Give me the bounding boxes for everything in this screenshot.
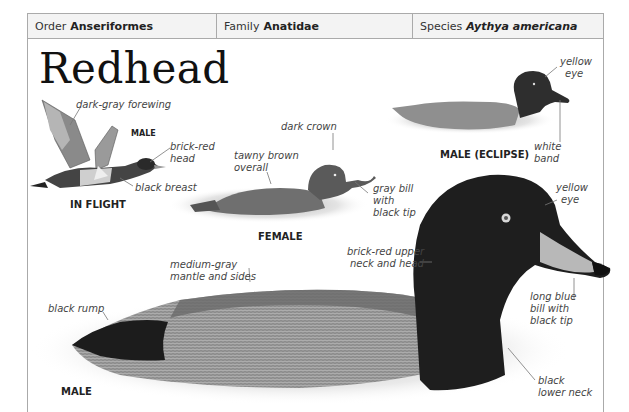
label-line: overall <box>234 162 268 173</box>
label-line: medium-gray <box>170 259 237 270</box>
caption-male-eclipse: MALE (ECLIPSE) <box>440 149 529 160</box>
label-dark-crown: dark crown <box>281 121 337 133</box>
label-tawny-brown-overall: tawny brownoverall <box>234 150 299 174</box>
label-line: head <box>170 153 195 164</box>
label-line: mantle and sides <box>170 271 256 282</box>
label-dark-gray-forewing: dark-gray forewing <box>76 99 171 111</box>
label-black-breast: black breast <box>135 182 197 194</box>
caption-male: MALE <box>61 386 92 397</box>
caption-in-flight: IN FLIGHT <box>70 199 126 210</box>
label-gray-bill-black-tip: gray billwithblack tip <box>373 183 416 219</box>
label-line: bill with <box>530 303 569 314</box>
male-eclipse-duck-illustration <box>385 71 569 134</box>
label-line: yellow <box>556 182 588 193</box>
label-line: black tip <box>530 315 573 326</box>
label-line: long blue <box>530 291 576 302</box>
label-line: brick-red upper <box>347 246 424 257</box>
in-flight-duck-illustration <box>30 100 166 188</box>
label-line: eye <box>556 194 579 205</box>
label-brick-red-upper-neck: brick-red upperneck and head <box>347 246 424 270</box>
label-line: gray bill <box>373 183 413 194</box>
label-line: tawny brown <box>234 150 299 161</box>
label-medium-gray-mantle: medium-graymantle and sides <box>170 259 256 283</box>
caption-flight-male: MALE <box>131 129 156 138</box>
label-line: with <box>373 195 394 206</box>
label-line: brick-red <box>170 141 215 152</box>
label-line: black <box>538 375 565 386</box>
label-line: yellow <box>560 56 592 67</box>
label-eclipse-yellow-eye: yelloweye <box>560 56 592 80</box>
label-white-band: whiteband <box>534 141 561 165</box>
label-line: band <box>534 153 559 164</box>
caption-female: FEMALE <box>258 231 303 242</box>
label-line: neck and head <box>347 258 424 269</box>
label-line: lower neck <box>538 387 592 398</box>
label-line: eye <box>560 68 583 79</box>
label-black-rump: black rump <box>48 303 104 315</box>
label-brick-red-head: brick-redhead <box>170 141 215 165</box>
label-line: white <box>534 141 561 152</box>
label-male-yellow-eye: yelloweye <box>556 182 588 206</box>
label-line: black tip <box>373 207 416 218</box>
label-long-blue-bill: long bluebill withblack tip <box>530 291 576 327</box>
label-black-lower-neck: blacklower neck <box>538 375 592 399</box>
